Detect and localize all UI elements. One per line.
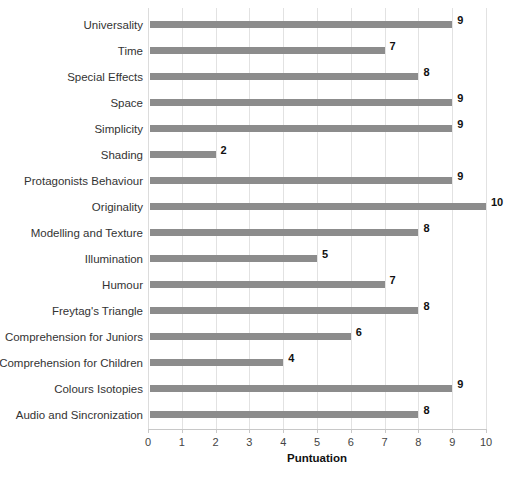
x-axis-tick bbox=[283, 429, 284, 433]
bar-value-label: 9 bbox=[457, 14, 463, 26]
bar-value-label: 9 bbox=[457, 92, 463, 104]
bar-rows: 97899291085786498 bbox=[148, 8, 486, 429]
x-axis-title: Puntuation bbox=[0, 452, 517, 464]
bar-row: 6 bbox=[148, 324, 486, 350]
bar-value-label: 2 bbox=[221, 144, 227, 156]
bar bbox=[150, 411, 418, 418]
bar-row: 7 bbox=[148, 272, 486, 298]
x-axis-tick bbox=[452, 429, 453, 433]
bar-row: 9 bbox=[148, 168, 486, 194]
bar-row: 2 bbox=[148, 142, 486, 168]
bar-value-label: 7 bbox=[390, 274, 396, 286]
bar-value-label: 8 bbox=[423, 300, 429, 312]
x-axis-tick-label: 8 bbox=[406, 436, 430, 448]
bar bbox=[150, 333, 351, 340]
bar-row: 8 bbox=[148, 402, 486, 428]
bar-value-label: 8 bbox=[423, 222, 429, 234]
x-axis-tick-label: 9 bbox=[440, 436, 464, 448]
category-label: Comprehension for Children bbox=[0, 350, 143, 376]
category-label: Shading bbox=[101, 142, 143, 168]
x-axis-tick bbox=[249, 429, 250, 433]
x-axis-tick-label: 7 bbox=[373, 436, 397, 448]
category-axis-labels: UniversalityTimeSpecial EffectsSpaceSimp… bbox=[0, 8, 143, 429]
bar bbox=[150, 307, 418, 314]
x-axis-tick bbox=[148, 429, 149, 433]
bar-row: 8 bbox=[148, 220, 486, 246]
x-axis-tick bbox=[418, 429, 419, 433]
category-label: Comprehension for Juniors bbox=[5, 324, 143, 350]
bar bbox=[150, 385, 452, 392]
gridline bbox=[486, 8, 487, 429]
plot-area: 97899291085786498 bbox=[148, 8, 486, 429]
bar-row: 5 bbox=[148, 246, 486, 272]
bar bbox=[150, 151, 216, 158]
x-axis-tick-label: 2 bbox=[204, 436, 228, 448]
category-label: Originality bbox=[92, 194, 143, 220]
bar-chart: 97899291085786498 UniversalityTimeSpecia… bbox=[0, 0, 517, 478]
bar-row: 7 bbox=[148, 38, 486, 64]
x-axis-tick bbox=[486, 429, 487, 433]
bar-value-label: 7 bbox=[390, 40, 396, 52]
bar-row: 9 bbox=[148, 12, 486, 38]
bar bbox=[150, 281, 385, 288]
bar-value-label: 8 bbox=[423, 404, 429, 416]
bar-row: 9 bbox=[148, 90, 486, 116]
category-label: Space bbox=[110, 90, 143, 116]
x-axis-tick-label: 4 bbox=[271, 436, 295, 448]
bar bbox=[150, 73, 418, 80]
x-axis-tick bbox=[317, 429, 318, 433]
bar-row: 4 bbox=[148, 350, 486, 376]
bar-value-label: 9 bbox=[457, 118, 463, 130]
bar-value-label: 10 bbox=[491, 196, 503, 208]
x-axis-title-label: Puntuation bbox=[170, 452, 347, 464]
bar-row: 8 bbox=[148, 298, 486, 324]
category-label: Universality bbox=[84, 12, 143, 38]
x-axis-tick-label: 3 bbox=[237, 436, 261, 448]
category-label: Modelling and Texture bbox=[31, 220, 143, 246]
bar-row: 9 bbox=[148, 376, 486, 402]
bar-row: 9 bbox=[148, 116, 486, 142]
x-axis-tick bbox=[351, 429, 352, 433]
bar-value-label: 8 bbox=[423, 66, 429, 78]
category-label: Audio and Sincronization bbox=[16, 402, 143, 428]
category-label: Time bbox=[118, 38, 143, 64]
category-label: Simplicity bbox=[94, 116, 143, 142]
bar bbox=[150, 99, 452, 106]
bar bbox=[150, 177, 452, 184]
bar bbox=[150, 255, 317, 262]
bar-value-label: 5 bbox=[322, 248, 328, 260]
bar bbox=[150, 203, 486, 210]
x-axis-tick-label: 6 bbox=[339, 436, 363, 448]
category-label: Humour bbox=[102, 272, 143, 298]
category-label: Illumination bbox=[85, 246, 143, 272]
x-axis-tick bbox=[216, 429, 217, 433]
x-axis-tick-label: 10 bbox=[474, 436, 498, 448]
bar-value-label: 9 bbox=[457, 378, 463, 390]
bar-value-label: 6 bbox=[356, 326, 362, 338]
bar-value-label: 4 bbox=[288, 352, 294, 364]
category-label: Special Effects bbox=[67, 64, 143, 90]
category-label: Freytag's Triangle bbox=[52, 298, 143, 324]
bar bbox=[150, 125, 452, 132]
x-axis-tick bbox=[385, 429, 386, 433]
bar bbox=[150, 359, 283, 366]
category-label: Colours Isotopies bbox=[54, 376, 143, 402]
x-axis-tick-label: 1 bbox=[170, 436, 194, 448]
category-label: Protagonists Behaviour bbox=[24, 168, 143, 194]
bar bbox=[150, 229, 418, 236]
bar bbox=[150, 21, 452, 28]
x-axis-tick-label: 5 bbox=[305, 436, 329, 448]
x-axis-tick-label: 0 bbox=[136, 436, 160, 448]
bar-value-label: 9 bbox=[457, 170, 463, 182]
bar-row: 8 bbox=[148, 64, 486, 90]
bar bbox=[150, 47, 385, 54]
x-axis-tick bbox=[182, 429, 183, 433]
bar-row: 10 bbox=[148, 194, 486, 220]
